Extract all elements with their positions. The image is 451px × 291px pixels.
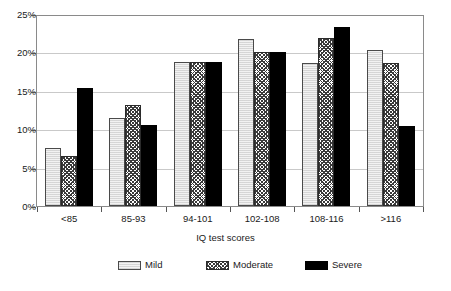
- bar-severe: [77, 88, 93, 206]
- bar-moderate: [61, 156, 77, 206]
- x-tick-mark: [294, 207, 295, 212]
- x-tick-label: 102-108: [245, 214, 280, 224]
- bar-moderate: [318, 38, 334, 206]
- legend-entry: Mild: [118, 260, 162, 270]
- legend-label: Moderate: [233, 260, 273, 270]
- bar-group: [230, 16, 294, 206]
- x-tick-mark: [359, 207, 360, 212]
- x-tick-mark: [230, 207, 231, 212]
- x-tick-label: <85: [61, 214, 77, 224]
- x-tick-mark: [166, 207, 167, 212]
- legend-label: Severe: [332, 260, 362, 270]
- bar-moderate: [125, 105, 141, 206]
- light-stipple-swatch: [118, 261, 141, 270]
- bar-group: [359, 16, 423, 206]
- bar-mild: [45, 148, 61, 206]
- x-tick-label: 108-116: [309, 214, 343, 224]
- bar-severe: [206, 62, 222, 206]
- solid-black-swatch: [305, 261, 328, 270]
- y-axis: 0%5%10%15%20%25%: [0, 0, 36, 291]
- chart-legend: MildModerateSevere: [0, 260, 451, 280]
- bar-moderate: [190, 62, 206, 206]
- bars-layer: [37, 16, 423, 206]
- bar-chart-figure: 0%5%10%15%20%25% <8585-9394-101102-10810…: [0, 0, 451, 291]
- crosshatch-swatch: [206, 261, 229, 270]
- bar-severe: [399, 126, 415, 206]
- bar-severe: [270, 52, 286, 206]
- x-tick-label: 85-93: [121, 214, 145, 224]
- bar-group: [101, 16, 165, 206]
- bar-mild: [238, 39, 254, 206]
- bar-moderate: [254, 52, 270, 206]
- x-tick-mark: [101, 207, 102, 212]
- x-tick-label: >116: [380, 214, 401, 224]
- bar-moderate: [383, 63, 399, 206]
- bar-mild: [302, 63, 318, 206]
- bar-mild: [367, 50, 383, 206]
- x-tick-mark: [37, 207, 38, 212]
- x-tick-label: 94-101: [183, 214, 213, 224]
- bar-group: [166, 16, 230, 206]
- bar-severe: [334, 27, 350, 206]
- bar-mild: [109, 118, 125, 206]
- legend-entry: Moderate: [206, 260, 273, 270]
- bar-severe: [141, 125, 157, 206]
- x-axis-title: IQ test scores: [0, 232, 451, 243]
- bar-group: [37, 16, 101, 206]
- bar-mild: [174, 62, 190, 206]
- legend-entry: Severe: [305, 260, 362, 270]
- x-tick-mark: [423, 207, 424, 212]
- bar-group: [294, 16, 358, 206]
- legend-label: Mild: [145, 260, 162, 270]
